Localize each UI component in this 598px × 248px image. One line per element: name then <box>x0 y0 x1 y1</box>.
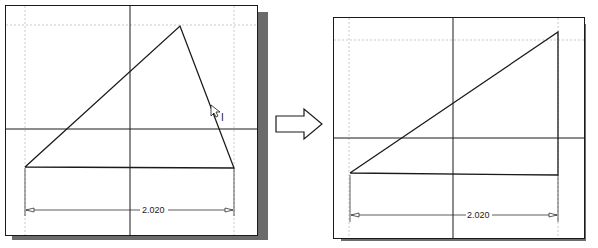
left-grid <box>6 6 257 235</box>
right-dimension[interactable] <box>350 175 558 222</box>
left-axes <box>6 6 257 235</box>
sketch-canvas: 2.020 I 2.020 <box>0 0 598 248</box>
right-axes <box>334 18 584 238</box>
right-triangle[interactable] <box>350 32 558 175</box>
left-dimension-value[interactable]: 2.020 <box>142 205 165 215</box>
cursor-label: I <box>221 112 224 123</box>
transition-arrow-icon <box>276 109 322 139</box>
right-dimension-value[interactable]: 2.020 <box>467 210 490 220</box>
cursor-icon <box>211 105 220 117</box>
right-grid <box>334 18 584 238</box>
